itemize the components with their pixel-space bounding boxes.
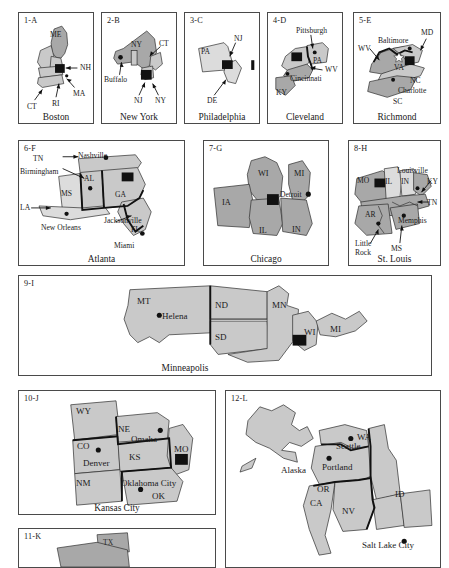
label-il: IL	[259, 227, 267, 235]
label-ma: MA	[73, 90, 85, 98]
label-ms: MS	[61, 190, 72, 198]
panel-11-K[interactable]: 11-K TX	[18, 528, 216, 568]
label-pa: PA	[201, 48, 210, 56]
label-birmingham: Birmingham	[20, 168, 58, 176]
label-buffalo: Buffalo	[104, 76, 127, 84]
label-oklahoma-city: Oklahoma City	[121, 479, 176, 488]
label-nm: NM	[76, 479, 91, 488]
city-name-philadelphia: Philadelphia	[185, 112, 259, 122]
label-ny-2: NY	[155, 97, 166, 105]
city-name-kansas-city: Kansas City	[19, 503, 215, 513]
label-fl: FL	[131, 226, 140, 234]
label-ct: CT	[27, 103, 37, 111]
label-mi: MI	[330, 325, 341, 334]
label-ca: CA	[310, 499, 323, 508]
label-ri: RI	[52, 100, 60, 108]
label-ga: GA	[115, 191, 126, 199]
label-md: MD	[421, 29, 433, 37]
label-tx: TX	[103, 539, 113, 547]
panel-1-A[interactable]: 1-A ME NH MA RI CT Boston	[18, 12, 94, 124]
label-mi: MI	[294, 170, 304, 178]
label-ok: OK	[152, 492, 165, 501]
label-detroit: Detroit	[280, 191, 302, 199]
label-sd: SD	[215, 333, 227, 342]
label-pa: PA	[313, 57, 322, 65]
label-wi: WI	[258, 170, 269, 178]
label-in: IN	[292, 226, 301, 234]
label-denver: Denver	[83, 459, 110, 468]
panel-7-G[interactable]: 7-G WI MI Detroit IA IL IN Chicago	[203, 140, 329, 266]
label-pittsburgh: Pittsburgh	[296, 27, 327, 35]
label-nj: NJ	[234, 35, 242, 43]
label-charlotte: Charlotte	[398, 87, 426, 95]
label-alaska: Alaska	[281, 466, 306, 475]
city-name-chicago: Chicago	[204, 254, 328, 264]
label-ne: NE	[118, 425, 130, 434]
label-va: VA	[394, 64, 404, 72]
label-nd: ND	[215, 301, 228, 310]
label-salt-lake-city: Salt Lake City	[362, 541, 414, 550]
label-helena: Helena	[162, 312, 187, 321]
label-ar: AR	[365, 211, 376, 219]
label-nj: NJ	[134, 97, 142, 105]
city-name-st-louis: St. Louis	[349, 254, 440, 264]
label-miami: Miami	[114, 242, 134, 250]
label-ks: KS	[129, 453, 141, 462]
city-name-boston: Boston	[19, 112, 93, 122]
label-memphis: Memphis	[398, 217, 427, 225]
label-il: IL	[385, 178, 392, 186]
label-baltimore: Baltimore	[378, 37, 408, 45]
label-ia: IA	[222, 199, 231, 207]
panel-6-F[interactable]: 6-F TN Nashville Birmingham AL MS LA	[18, 140, 185, 266]
label-ky: KY	[427, 178, 438, 186]
label-wv: WV	[358, 45, 371, 53]
city-name-new-york: New York	[102, 112, 176, 122]
label-ms: MS	[391, 245, 402, 253]
label-nv: NV	[342, 507, 355, 516]
label-de: DE	[207, 97, 217, 105]
panel-2-B[interactable]: 2-B NY CT Buffalo NJ NY New York	[101, 12, 177, 124]
city-name-atlanta: Atlanta	[19, 254, 184, 264]
label-seattle: Seattle	[336, 442, 361, 451]
panel-8-H[interactable]: 8-H Louisville MO IL IN KY TN AR Memphi	[348, 140, 441, 266]
label-ny: NY	[131, 41, 142, 49]
map-2-B	[102, 13, 176, 123]
label-louisville: Louisville	[397, 167, 428, 175]
label-mn: MN	[272, 301, 287, 310]
city-name-minneapolis: Minneapolis	[18, 363, 431, 373]
map-3-C	[185, 13, 259, 123]
panel-4-D[interactable]: 4-D Pittsburgh PA WV Cincinnati KY Cleve…	[267, 12, 343, 124]
label-nashville: Nashville	[78, 152, 107, 160]
panel-3-C[interactable]: 3-C PA NJ DE Philadelphia	[184, 12, 260, 124]
label-wy: WY	[76, 407, 91, 416]
label-jacksonville: Jacksonville	[104, 217, 142, 225]
label-nh: NH	[80, 64, 91, 72]
panel-10-J[interactable]: 10-J WY NE Omaha CO KS MO Denver NM Okla…	[18, 390, 216, 515]
label-nc: NC	[410, 77, 421, 85]
label-mo: MO	[174, 445, 189, 454]
label-ky: KY	[276, 89, 287, 97]
label-wv: WV	[325, 66, 338, 74]
label-mt: MT	[137, 297, 151, 306]
label-omaha: Omaha	[131, 435, 157, 444]
city-name-cleveland: Cleveland	[268, 112, 342, 122]
map-9-I	[19, 276, 431, 375]
label-tn: TN	[33, 155, 43, 163]
label-la: LA	[20, 204, 30, 212]
label-portland: Portland	[322, 463, 353, 472]
label-al: AL	[84, 175, 94, 183]
label-sc: SC	[393, 98, 402, 106]
panel-12-L[interactable]: 12-L Alaska WA Se	[225, 390, 441, 568]
label-mo: MO	[357, 177, 369, 185]
label-new-orleans: New Orleans	[41, 224, 81, 232]
map-11-K	[19, 529, 215, 567]
label-co: CO	[77, 442, 90, 451]
label-ct: CT	[159, 40, 169, 48]
label-little: Little	[355, 240, 371, 248]
label-or: OR	[317, 485, 330, 494]
panel-5-E[interactable]: 5-E WV Baltimore MD VA NC Charlotte SC R…	[353, 12, 441, 124]
label-cincinnati: Cincinnati	[290, 75, 322, 83]
label-me: ME	[50, 31, 61, 39]
panel-9-I[interactable]: 9-I MT Helena ND MN SD WI MI Minneapolis	[18, 275, 432, 376]
